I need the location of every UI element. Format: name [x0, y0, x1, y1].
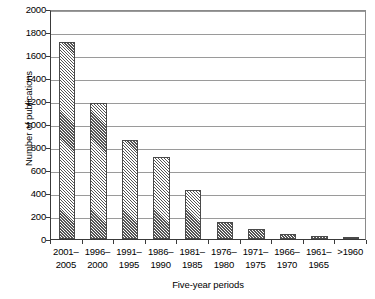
- x-axis-tick-label: 1996–2000: [82, 246, 114, 271]
- x-axis-tick-label: >1960: [334, 246, 366, 259]
- y-axis-tickmark: [46, 125, 50, 126]
- x-axis-tickmark: [240, 240, 241, 244]
- x-axis-tick-label: 1961–1965: [303, 246, 335, 271]
- y-axis-tick-label: 1200: [8, 97, 46, 107]
- x-axis-tick-label: 1981–1985: [176, 246, 208, 271]
- y-axis-tick-label: 800: [8, 143, 46, 153]
- plot-area: [50, 10, 366, 240]
- y-axis-tickmark: [46, 171, 50, 172]
- y-axis-tick-label: 0: [8, 235, 46, 245]
- bar: [217, 222, 233, 239]
- x-axis-tick-label: 1966–1970: [271, 246, 303, 271]
- x-axis-title: Five-year periods: [50, 279, 366, 290]
- y-axis-tick-label: 1800: [8, 28, 46, 38]
- bar: [90, 103, 106, 239]
- x-axis-tick-label: 1976–1980: [208, 246, 240, 271]
- bar: [59, 42, 75, 239]
- y-axis-tick-label: 200: [8, 212, 46, 222]
- y-axis-tickmark: [46, 33, 50, 34]
- x-axis-tickmark: [271, 240, 272, 244]
- x-axis-tick-label: 1991–1995: [113, 246, 145, 271]
- bars-layer: [51, 11, 365, 239]
- y-axis-tickmark: [46, 194, 50, 195]
- x-axis-tick-label: 1986–1990: [145, 246, 177, 271]
- y-axis-tickmark: [46, 217, 50, 218]
- x-axis-tickmark: [145, 240, 146, 244]
- x-axis-tick-labels: 2001–20051996–20001991–19951986–19901981…: [50, 246, 366, 274]
- y-axis-tick-label: 1600: [8, 51, 46, 61]
- bar: [185, 190, 201, 239]
- x-axis-tick-label: 2001–2005: [50, 246, 82, 271]
- bar: [343, 237, 359, 239]
- x-axis-tickmark: [82, 240, 83, 244]
- y-axis-tickmark: [46, 10, 50, 11]
- bar: [280, 234, 296, 239]
- x-axis-tickmark: [176, 240, 177, 244]
- y-axis-tickmark: [46, 79, 50, 80]
- y-axis-tick-label: 400: [8, 189, 46, 199]
- x-axis-tickmark: [113, 240, 114, 244]
- y-axis-tickmark: [46, 102, 50, 103]
- bar: [122, 140, 138, 239]
- y-axis-tick-label: 600: [8, 166, 46, 176]
- y-axis-tick-labels: 0200400600800100012001400160018002000: [8, 10, 46, 240]
- y-axis-tickmark: [46, 148, 50, 149]
- x-axis-tick-label: 1971–1975: [240, 246, 272, 271]
- x-axis-tickmark: [50, 240, 51, 244]
- x-axis-tickmark: [334, 240, 335, 244]
- bar-chart: Number of publications 02004006008001000…: [0, 0, 375, 299]
- y-axis-tick-label: 1000: [8, 120, 46, 130]
- x-axis-tickmark: [303, 240, 304, 244]
- y-axis-tickmark: [46, 56, 50, 57]
- bar: [248, 229, 264, 239]
- y-axis-tick-label: 1400: [8, 74, 46, 84]
- bar: [153, 157, 169, 239]
- x-axis-tickmark: [208, 240, 209, 244]
- bar: [311, 236, 327, 239]
- x-axis-tickmark: [366, 240, 367, 244]
- y-axis-tick-label: 2000: [8, 5, 46, 15]
